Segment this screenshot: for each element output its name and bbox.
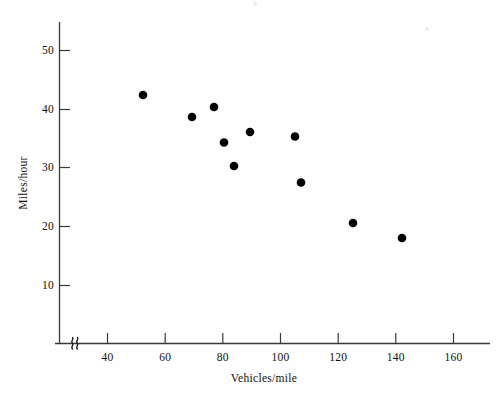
data-point <box>230 162 239 171</box>
y-axis-title: Miles/hour <box>17 156 29 209</box>
x-axis-ticks <box>108 333 454 343</box>
x-axis-title: Vehicles/mile <box>231 372 298 384</box>
axes <box>55 22 490 344</box>
data-point <box>398 234 407 243</box>
x-tick-label-80: 80 <box>217 352 229 364</box>
data-point <box>349 219 358 228</box>
data-point <box>210 103 219 112</box>
data-point <box>188 113 197 122</box>
x-tick-label-140: 140 <box>387 352 405 364</box>
data-point <box>220 138 229 147</box>
data-point <box>297 178 306 187</box>
x-tick-label-60: 60 <box>159 352 171 364</box>
y-tick-label-40: 40 <box>28 104 54 116</box>
scatter-plot-figure: 50 40 30 20 10 40 60 80 100 120 140 160 … <box>0 0 504 393</box>
x-tick-label-100: 100 <box>272 352 290 364</box>
plot-canvas <box>0 0 504 393</box>
data-point <box>246 128 255 137</box>
y-tick-label-50: 50 <box>28 45 54 57</box>
y-axis-ticks <box>60 51 70 286</box>
y-tick-label-20: 20 <box>28 221 54 233</box>
y-tick-label-10: 10 <box>28 280 54 292</box>
y-tick-label-30: 30 <box>28 162 54 174</box>
x-tick-label-160: 160 <box>445 352 463 364</box>
data-points <box>139 91 407 243</box>
x-tick-label-120: 120 <box>329 352 347 364</box>
x-tick-label-40: 40 <box>102 352 114 364</box>
data-point <box>139 91 148 100</box>
data-point <box>291 132 300 141</box>
